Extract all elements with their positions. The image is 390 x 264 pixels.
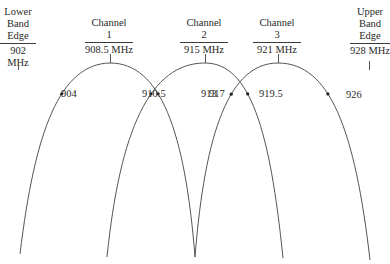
channel-curves <box>0 0 390 264</box>
point-dot-917 <box>230 93 233 96</box>
point-label-919-5: 919.5 <box>259 88 283 100</box>
point-label-917: 917 <box>209 88 225 100</box>
channel-2-curve <box>107 63 283 258</box>
point-label-904: 904 <box>61 88 77 100</box>
point-dot-926 <box>326 92 329 95</box>
point-dot-919-5 <box>246 92 249 95</box>
channel-1-curve <box>20 63 195 257</box>
point-label-926: 926 <box>346 89 362 101</box>
point-label-910-5: 910.5 <box>142 88 166 100</box>
